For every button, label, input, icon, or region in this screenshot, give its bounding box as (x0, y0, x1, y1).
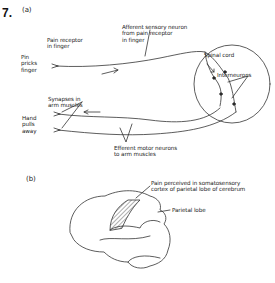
efferent-neuron-label: Efferent motor neurons to arm muscles (114, 145, 177, 158)
parietal-lobe-label: Parietal lobe (172, 207, 205, 213)
spinal-cord-label: Spinal cord (204, 52, 234, 58)
part-a-label: (a) (22, 7, 31, 13)
afferent-neuron (56, 51, 236, 112)
hand-pulls-label: Hand pulls away (22, 115, 36, 134)
interneurons-label: Interneurons (217, 72, 251, 78)
part-b-label: (b) (26, 176, 36, 182)
pain-receptor-label: Pain receptor in finger (47, 37, 83, 50)
efferent-neuron-1 (58, 108, 220, 122)
pain-perceived-label: Pain perceived in somatosensory cortex o… (151, 180, 245, 193)
afferent-neuron-label: Afferent sensory neuron from pain recept… (122, 24, 187, 43)
pin-pricks-label: Pin pricks finger (21, 54, 37, 73)
synapses-label: Synapses in arm muscles (48, 96, 83, 109)
